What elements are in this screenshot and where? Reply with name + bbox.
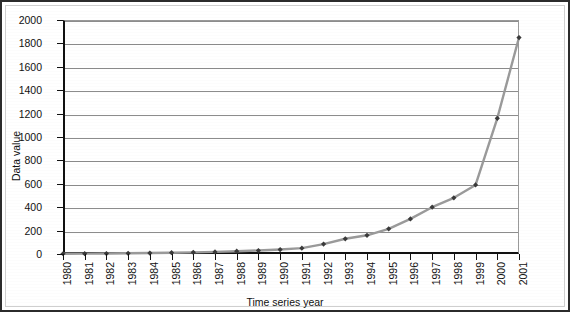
gridline bbox=[65, 161, 518, 162]
x-axis-tick bbox=[476, 254, 477, 260]
y-axis-tick-label: 600 bbox=[0, 179, 42, 189]
x-axis-tick-label: 1995 bbox=[388, 262, 398, 285]
y-axis-tick bbox=[57, 90, 63, 91]
x-axis-tick bbox=[193, 254, 194, 260]
x-axis-tick bbox=[150, 254, 151, 260]
y-axis-tick bbox=[57, 207, 63, 208]
y-axis-tick bbox=[57, 160, 63, 161]
gridline bbox=[65, 91, 518, 92]
y-axis-tick-label: 1200 bbox=[0, 109, 42, 119]
x-axis-tick-label: 1993 bbox=[344, 262, 354, 285]
x-axis-tick bbox=[367, 254, 368, 260]
x-axis-tick-label: 1998 bbox=[453, 262, 463, 285]
x-axis-tick-label: 1983 bbox=[127, 262, 137, 285]
x-axis-tick-label: 2000 bbox=[496, 262, 506, 285]
y-axis-tick-label: 2000 bbox=[0, 15, 42, 25]
x-axis-tick bbox=[106, 254, 107, 260]
gridline bbox=[65, 208, 518, 209]
x-axis-tick-label: 1981 bbox=[84, 262, 94, 285]
x-axis-tick bbox=[63, 254, 64, 260]
chart-frame: Data value Time series year 020040060080… bbox=[5, 5, 565, 307]
x-axis-tick bbox=[258, 254, 259, 260]
gridline bbox=[65, 232, 518, 233]
x-axis-title: Time series year bbox=[6, 296, 564, 308]
y-axis-tick bbox=[57, 231, 63, 232]
gridline bbox=[65, 185, 518, 186]
x-axis-tick-label: 1999 bbox=[475, 262, 485, 285]
x-axis-tick-label: 1991 bbox=[301, 262, 311, 285]
y-axis-tick-label: 1000 bbox=[0, 132, 42, 142]
x-axis-tick bbox=[85, 254, 86, 260]
y-axis-tick bbox=[57, 20, 63, 21]
x-axis-tick-label: 1996 bbox=[409, 262, 419, 285]
y-axis-tick bbox=[57, 43, 63, 44]
y-axis-tick bbox=[57, 114, 63, 115]
x-axis-tick bbox=[345, 254, 346, 260]
plot-area bbox=[63, 20, 519, 254]
y-axis-tick bbox=[57, 184, 63, 185]
x-axis-tick bbox=[324, 254, 325, 260]
x-axis-tick-label: 1994 bbox=[366, 262, 376, 285]
x-axis-tick bbox=[172, 254, 173, 260]
x-axis-tick-label: 1988 bbox=[236, 262, 246, 285]
y-axis-tick bbox=[57, 67, 63, 68]
y-axis-tick-label: 1600 bbox=[0, 62, 42, 72]
x-axis-tick-label: 1982 bbox=[105, 262, 115, 285]
gridline bbox=[65, 44, 518, 45]
x-axis-tick bbox=[432, 254, 433, 260]
x-axis-tick bbox=[280, 254, 281, 260]
x-axis-tick bbox=[237, 254, 238, 260]
x-axis-tick bbox=[410, 254, 411, 260]
x-axis-tick bbox=[519, 254, 520, 260]
y-axis-tick-label: 800 bbox=[0, 155, 42, 165]
chart-figure: Data value Time series year 020040060080… bbox=[0, 0, 570, 312]
y-axis-tick-label: 1800 bbox=[0, 38, 42, 48]
gridline bbox=[65, 21, 518, 22]
x-axis-tick-label: 1980 bbox=[62, 262, 72, 285]
x-axis-tick-label: 1997 bbox=[431, 262, 441, 285]
x-axis-tick bbox=[497, 254, 498, 260]
gridline bbox=[65, 138, 518, 139]
y-axis-tick-label: 400 bbox=[0, 202, 42, 212]
x-axis-tick bbox=[302, 254, 303, 260]
x-axis-tick bbox=[454, 254, 455, 260]
gridline bbox=[65, 115, 518, 116]
x-axis-tick-label: 1984 bbox=[149, 262, 159, 285]
x-axis-tick bbox=[389, 254, 390, 260]
y-axis-tick-label: 200 bbox=[0, 226, 42, 236]
x-axis-tick bbox=[215, 254, 216, 260]
y-axis-tick-label: 1400 bbox=[0, 85, 42, 95]
x-axis-tick-label: 2001 bbox=[518, 262, 528, 285]
x-axis-tick bbox=[128, 254, 129, 260]
x-axis-tick-label: 1989 bbox=[257, 262, 267, 285]
x-axis-tick-label: 1992 bbox=[323, 262, 333, 285]
gridline bbox=[65, 68, 518, 69]
x-axis-tick-label: 1986 bbox=[192, 262, 202, 285]
y-axis-tick-label: 0 bbox=[0, 249, 42, 259]
x-axis-tick-label: 1985 bbox=[171, 262, 181, 285]
x-axis-tick-label: 1990 bbox=[279, 262, 289, 285]
x-axis-tick-label: 1987 bbox=[214, 262, 224, 285]
y-axis-tick bbox=[57, 137, 63, 138]
